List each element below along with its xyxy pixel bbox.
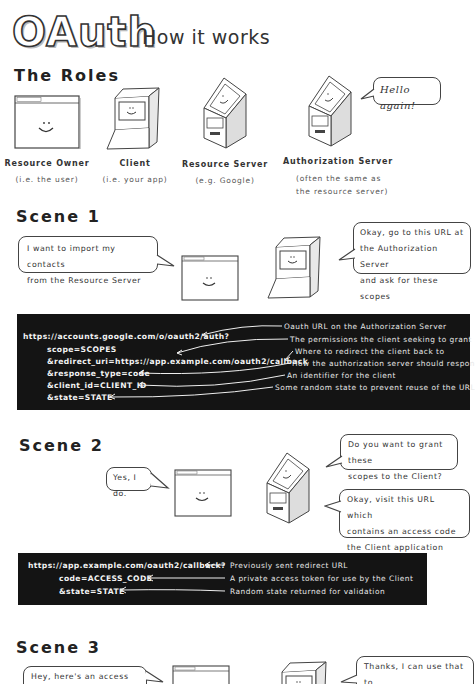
speech-bubble-owner-scene-2: Yes, I do.	[106, 467, 152, 491]
server-kiosk-icon	[305, 70, 355, 148]
computer-terminal-icon	[266, 235, 328, 301]
role-sub-authorization-server-1: (often the same as	[296, 172, 436, 185]
browser-window-icon	[172, 665, 232, 684]
role-sub-authorization-server-2: the resource server)	[296, 185, 436, 198]
callback-url-code-block: https://app.example.com/oauth2/callback?…	[18, 553, 427, 605]
speech-bubble-server-question: Do you want to grant these scopes to the…	[340, 434, 458, 470]
arrows	[17, 314, 470, 410]
section-title-scene-3: Scene 3	[16, 638, 101, 657]
speech-tail	[156, 254, 176, 268]
speech-bubble-client-scene-1: Okay, go to this URL at the Authorizatio…	[353, 222, 471, 274]
page-subtitle: How it works	[142, 26, 270, 48]
speech-tail	[340, 674, 358, 684]
role-sub-resource-server: (e.g. Google)	[170, 174, 280, 187]
speech-tail	[150, 472, 170, 490]
role-label-resource-server: Resource Server	[170, 160, 280, 169]
oauth-logo: OAuth	[12, 10, 157, 54]
computer-terminal-icon	[105, 86, 167, 152]
speech-bubble-owner-scene-3: Hey, here's an access code	[23, 666, 147, 684]
speech-tail	[338, 248, 356, 262]
arrows	[18, 553, 427, 605]
section-title-roles: The Roles	[14, 66, 120, 85]
speech-bubble-client-scene-3: Thanks, I can use that to access the dat…	[356, 656, 474, 684]
speech-tail	[325, 455, 343, 469]
section-title-scene-1: Scene 1	[16, 207, 101, 226]
speech-tail	[145, 670, 165, 684]
browser-window-icon	[14, 95, 82, 151]
section-title-scene-2: Scene 2	[19, 436, 104, 455]
role-label-authorization-server: Authorization Server	[283, 157, 423, 166]
computer-terminal-icon	[272, 660, 334, 684]
speech-bubble-hello: Hello again!	[373, 77, 441, 105]
browser-window-icon	[174, 469, 234, 519]
speech-tail	[360, 88, 376, 100]
browser-window-icon	[181, 255, 241, 303]
server-kiosk-icon	[263, 447, 313, 525]
server-kiosk-icon	[200, 72, 250, 150]
speech-tail	[324, 500, 342, 516]
authorization-url-code-block: https://accounts.google.com/o/oauth2/aut…	[17, 314, 470, 410]
speech-bubble-server-redirect: Okay, visit this URL which contains an a…	[339, 489, 470, 538]
speech-bubble-owner-scene-1: I want to import my contacts from the Re…	[18, 236, 158, 273]
